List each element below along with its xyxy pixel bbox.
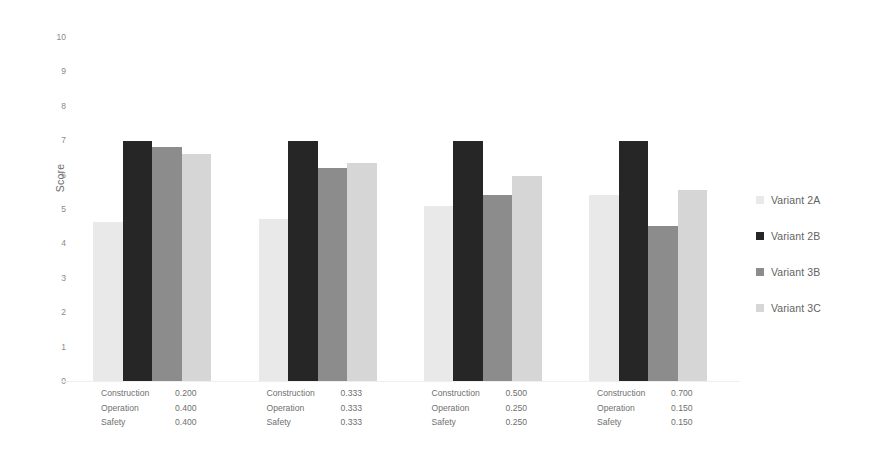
- criterion-weight: 0.400: [175, 401, 197, 416]
- legend-item[interactable]: Variant 3B: [756, 254, 821, 290]
- bar[interactable]: [259, 219, 289, 381]
- bar[interactable]: [589, 195, 619, 381]
- criterion-name: Operation: [597, 401, 635, 416]
- legend-swatch-icon: [756, 232, 764, 240]
- chart-canvas: Score 012345678910 Construction0.200Oper…: [0, 0, 870, 452]
- criterion-weight: 0.400: [175, 415, 197, 430]
- criterion-name: Operation: [101, 401, 139, 416]
- criterion-name: Safety: [101, 415, 125, 430]
- legend-swatch-icon: [756, 304, 764, 312]
- criterion-name: Construction: [597, 386, 645, 401]
- legend-item[interactable]: Variant 3C: [756, 290, 821, 326]
- legend-swatch-icon: [756, 196, 764, 204]
- bar-group: [93, 81, 211, 381]
- bar[interactable]: [318, 168, 348, 381]
- legend-label: Variant 3C: [771, 302, 821, 314]
- criterion-weight: 0.333: [341, 415, 363, 430]
- legend-label: Variant 2B: [771, 230, 820, 242]
- criterion-name: Construction: [432, 386, 480, 401]
- axis-baseline: [60, 381, 740, 382]
- criterion-name: Safety: [432, 415, 456, 430]
- legend-label: Variant 2A: [771, 194, 820, 206]
- plot-area: [0, 0, 870, 452]
- bar[interactable]: [648, 226, 678, 381]
- bar[interactable]: [288, 141, 318, 381]
- bar-group: [424, 81, 542, 381]
- bar-group: [259, 81, 377, 381]
- criterion-weight: 0.333: [341, 401, 363, 416]
- legend-label: Variant 3B: [771, 266, 820, 278]
- criterion-weight: 0.150: [671, 415, 693, 430]
- bar[interactable]: [483, 195, 513, 381]
- legend-swatch-icon: [756, 268, 764, 276]
- criterion-name: Operation: [267, 401, 305, 416]
- bar[interactable]: [93, 222, 123, 381]
- criterion-name: Safety: [267, 415, 291, 430]
- bar[interactable]: [123, 141, 153, 381]
- legend: Variant 2AVariant 2BVariant 3BVariant 3C: [756, 182, 821, 326]
- criterion-weight: 0.700: [671, 386, 693, 401]
- criterion-weight: 0.250: [506, 415, 528, 430]
- bar[interactable]: [182, 154, 212, 381]
- bar-group: [589, 81, 707, 381]
- criterion-weight: 0.500: [506, 386, 528, 401]
- criterion-weight: 0.200: [175, 386, 197, 401]
- criterion-name: Construction: [267, 386, 315, 401]
- legend-item[interactable]: Variant 2B: [756, 218, 821, 254]
- bar[interactable]: [678, 190, 708, 381]
- criterion-weight: 0.250: [506, 401, 528, 416]
- bar[interactable]: [453, 141, 483, 381]
- criterion-name: Safety: [597, 415, 621, 430]
- bar[interactable]: [424, 206, 454, 381]
- criterion-weight: 0.150: [671, 401, 693, 416]
- criterion-name: Construction: [101, 386, 149, 401]
- criterion-weight: 0.333: [341, 386, 363, 401]
- legend-item[interactable]: Variant 2A: [756, 182, 821, 218]
- bar[interactable]: [619, 141, 649, 381]
- bar[interactable]: [512, 176, 542, 381]
- bar[interactable]: [152, 147, 182, 381]
- criterion-name: Operation: [432, 401, 470, 416]
- bar[interactable]: [347, 163, 377, 381]
